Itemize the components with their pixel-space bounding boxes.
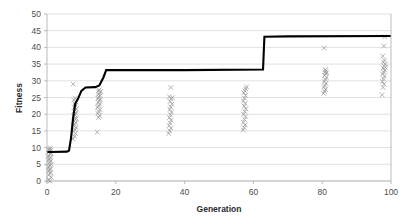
y-tick-label: 40 xyxy=(32,42,42,52)
x-tick-label: 0 xyxy=(45,187,50,197)
y-tick-label: 30 xyxy=(32,76,42,86)
y-tick-label: 35 xyxy=(32,59,42,69)
y-axis-title: Fitness xyxy=(14,83,24,113)
x-tick-label: 40 xyxy=(180,187,190,197)
y-tick-label: 20 xyxy=(32,109,42,119)
chart-canvas: 05101520253035404550 020406080100 Fitnes… xyxy=(0,0,414,218)
y-tick-label: 25 xyxy=(32,93,42,103)
x-tick-label: 60 xyxy=(249,187,259,197)
y-tick-label: 0 xyxy=(36,176,41,186)
fitness-generation-chart: 05101520253035404550 020406080100 Fitnes… xyxy=(0,0,414,218)
y-tick-label: 5 xyxy=(36,159,41,169)
x-tick-label: 100 xyxy=(384,187,398,197)
y-tick-label: 45 xyxy=(32,26,42,36)
y-tick-label: 10 xyxy=(32,143,42,153)
x-tick-label: 80 xyxy=(317,187,327,197)
x-axis-title: Generation xyxy=(197,204,242,214)
y-tick-label: 50 xyxy=(32,9,42,19)
y-tick-label: 15 xyxy=(32,126,42,136)
x-tick-label: 20 xyxy=(111,187,121,197)
